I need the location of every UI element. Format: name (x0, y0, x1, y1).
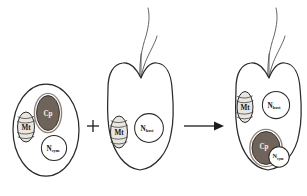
cell-host: Mt Nhost (108, 8, 174, 170)
organelle-mitochondrion: Mt (237, 92, 253, 123)
organelle-mitochondrion: Mt (111, 116, 128, 148)
cell-symbiont-alga: Mt Cp Nsym (13, 84, 79, 176)
chloroplast-label: Cp (259, 142, 268, 150)
operator-plus: + (87, 120, 99, 132)
organelle-nucleus-host: Nhost (135, 114, 164, 143)
chloroplast-label: Cp (43, 109, 52, 117)
mitochondrion-label: Mt (21, 123, 31, 131)
operator-arrow: → (184, 122, 224, 131)
arrow-head-icon (214, 122, 224, 131)
organelle-chloroplast: Cp (34, 93, 61, 132)
organelle-mitochondrion: Mt (18, 112, 35, 142)
organelle-nucleus-host: Nhost (262, 91, 289, 118)
cell-product: Mt Nhost Cp Nsym (236, 8, 302, 170)
mitochondrion-label: Mt (114, 128, 124, 136)
organelle-nucleus-sym: Nsym (41, 135, 66, 160)
organelle-nucleus-sym: Nsym (269, 147, 289, 167)
endosymbiosis-diagram: Mt Cp Nsym + (0, 0, 307, 196)
diagram-canvas: Mt Cp Nsym + (0, 0, 307, 196)
mitochondrion-label: Mt (240, 103, 250, 111)
